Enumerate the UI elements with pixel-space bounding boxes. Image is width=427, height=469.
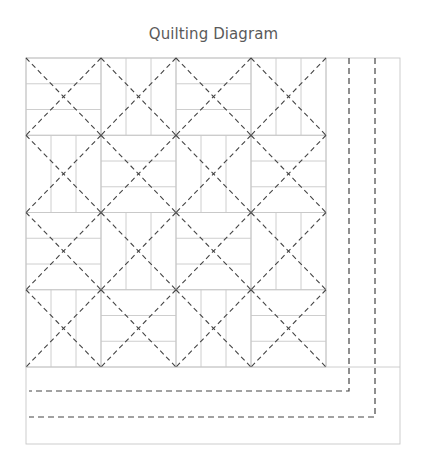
diagonal-stitch [176, 135, 251, 212]
border-quilting-lines [29, 58, 375, 417]
quilting-diagram [0, 0, 427, 469]
diagonal-stitch [251, 58, 326, 135]
diagonal-stitch [26, 213, 101, 290]
diagonal-stitch [101, 135, 176, 212]
diagonal-stitch [251, 213, 326, 290]
diagonal-stitch [101, 290, 176, 367]
diagonal-stitch [176, 213, 251, 290]
diagonal-stitch [251, 290, 326, 367]
diagonal-stitch [26, 290, 101, 367]
border-stitch-line [29, 58, 375, 417]
diagonal-stitch [176, 58, 251, 135]
diagonal-stitch [26, 58, 101, 135]
diagonal-stitch [101, 213, 176, 290]
diagonal-stitch [26, 135, 101, 212]
diagonal-stitch [101, 58, 176, 135]
diagonal-stitch [176, 290, 251, 367]
diagonal-stitch [251, 135, 326, 212]
